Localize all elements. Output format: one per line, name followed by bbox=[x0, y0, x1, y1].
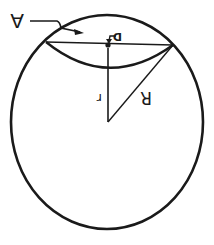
label-area: A bbox=[10, 9, 24, 33]
segment-diagram: A D r R bbox=[0, 0, 214, 245]
area-arrowhead-icon bbox=[74, 29, 84, 35]
radius-r-line bbox=[108, 45, 173, 122]
label-radius: R bbox=[140, 88, 152, 108]
label-point: D bbox=[113, 30, 122, 43]
label-distance: r bbox=[96, 91, 102, 106]
point-d-dot bbox=[105, 42, 110, 47]
